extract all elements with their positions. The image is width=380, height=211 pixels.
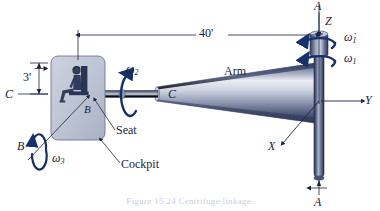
- label-omega3: ω3: [52, 152, 64, 166]
- omega1-dot-subscript: 1: [352, 36, 356, 45]
- diagram-svg: [0, 0, 380, 211]
- omega2-subscript: 2: [134, 68, 138, 77]
- label-omega2: ω2: [126, 63, 138, 77]
- figure-canvas: A A Z Y X 40' 3' C C B B ω̇1 ω1 ω2 ω3 Ar…: [0, 0, 380, 211]
- omega3-subscript: 3: [60, 157, 64, 166]
- label-C-arm: C: [168, 88, 176, 100]
- label-C-left: C: [5, 88, 13, 100]
- label-dimension-40ft: 40': [199, 27, 213, 39]
- figure-caption: Figure 15.24 Centrifuge linkage.: [0, 196, 380, 206]
- label-axis-y: Y: [365, 94, 372, 106]
- label-dimension-3ft: 3': [23, 71, 31, 83]
- omega3-rotation-arrow: [32, 134, 47, 169]
- cockpit-rod: [100, 89, 158, 98]
- label-axis-z: Z: [325, 15, 332, 27]
- label-arm: Arm: [224, 65, 246, 77]
- label-cockpit: Cockpit: [121, 158, 159, 170]
- label-B-lower: B: [17, 140, 24, 152]
- leader-cockpit: [101, 140, 120, 163]
- label-B-upper: B: [84, 104, 91, 115]
- label-omega1-dot: ω̇1: [344, 31, 356, 45]
- label-seat: Seat: [116, 124, 137, 136]
- omega1-subscript: 1: [352, 57, 356, 66]
- label-A-top: A: [314, 0, 321, 12]
- label-omega1: ω1: [344, 52, 356, 66]
- label-axis-x: X: [268, 140, 275, 152]
